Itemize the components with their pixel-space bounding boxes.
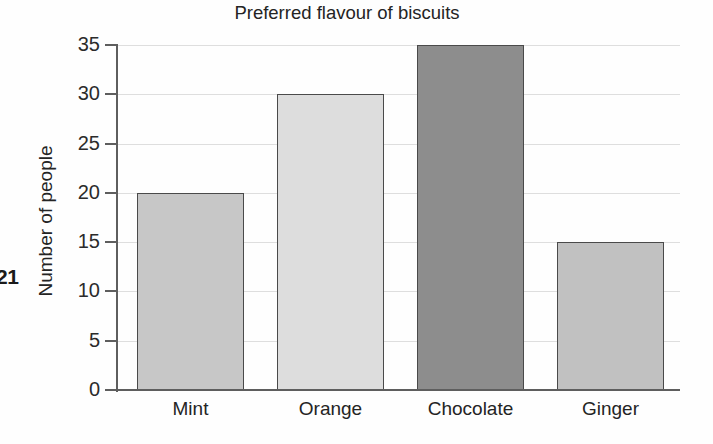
- chart-title: Preferred flavour of biscuits: [137, 2, 557, 24]
- y-axis-tick: [105, 241, 117, 243]
- gridline: [117, 45, 680, 46]
- y-axis-tick-label: 25: [54, 133, 100, 153]
- y-axis-title: Number of people: [35, 131, 57, 311]
- gridline: [117, 94, 680, 95]
- x-axis-label-orange: Orange: [277, 398, 384, 420]
- x-axis-label-ginger: Ginger: [557, 398, 664, 420]
- x-axis-label-mint: Mint: [137, 398, 244, 420]
- plot-area: [117, 45, 680, 390]
- bar-mint: [137, 193, 244, 390]
- bar-ginger: [557, 242, 664, 390]
- y-axis-tick-label: 30: [54, 83, 100, 103]
- y-axis-tick: [105, 290, 117, 292]
- y-axis-tick: [105, 44, 117, 46]
- y-axis-tick-label: 35: [54, 34, 100, 54]
- y-axis-tick: [105, 389, 117, 391]
- y-axis-tick-label: 0: [54, 379, 100, 399]
- y-axis-tick: [105, 143, 117, 145]
- bar-orange: [277, 94, 384, 390]
- x-axis-line: [116, 389, 680, 391]
- x-axis-label-chocolate: Chocolate: [417, 398, 524, 420]
- y-axis-tick: [105, 192, 117, 194]
- bar-chart-figure: 21 Preferred flavour of biscuits 0510152…: [0, 0, 713, 444]
- y-axis-tick-label: 10: [54, 280, 100, 300]
- y-axis-tick-label: 5: [54, 330, 100, 350]
- y-axis-tick-label: 20: [54, 182, 100, 202]
- page-number: 21: [0, 265, 18, 289]
- y-axis-tick-label: 15: [54, 231, 100, 251]
- y-axis-tick: [105, 93, 117, 95]
- y-axis-tick: [105, 340, 117, 342]
- gridline: [117, 144, 680, 145]
- bar-chocolate: [417, 45, 524, 390]
